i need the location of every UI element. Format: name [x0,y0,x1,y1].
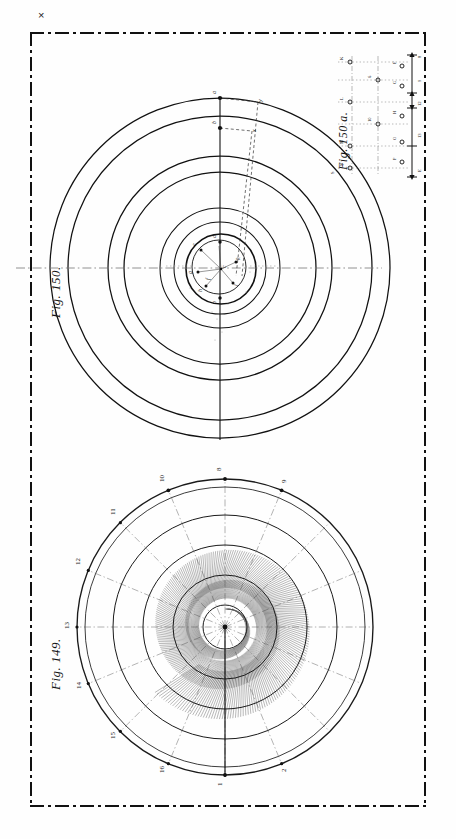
svg-text:13: 13 [63,622,71,630]
svg-text:L: L [339,97,344,100]
svg-text:8: 8 [417,55,422,58]
svg-text:h: h [197,289,203,292]
plate-page: × Plate XXVI. Fig. 150. [0,0,456,839]
svg-text:N: N [339,162,344,166]
svg-text:12: 12 [417,101,422,106]
svg-text:14: 14 [75,682,83,690]
svg-text:G: G [392,80,397,84]
svg-text:12: 12 [74,558,82,566]
svg-text:a: a [211,91,217,94]
svg-text:F: F [392,61,397,64]
svg-text:11: 11 [109,508,117,515]
svg-text:K: K [339,56,344,60]
svg-text:g: g [187,271,193,274]
svg-text:x: x [251,129,257,133]
svg-text:16: 16 [158,766,166,774]
svg-text:f: f [205,277,211,280]
svg-text:l: l [233,284,239,286]
svg-text:1: 1 [216,782,224,786]
figure-150-drawing: a b y x [70,36,370,436]
svg-text:9: 9 [417,79,422,82]
figure-150a-drawing: K L M N 6 10 F G H O P 8 9 12 13 E S [326,46,430,186]
svg-text:13: 13 [417,133,422,138]
registration-mark-icon: × [38,10,44,21]
svg-text:H: H [392,110,397,114]
svg-text:c: c [221,265,227,268]
svg-text:S: S [330,171,335,174]
svg-text:b: b [211,121,217,124]
svg-text:y: y [257,99,263,103]
svg-text:8: 8 [215,467,223,471]
svg-text:o: o [211,301,217,304]
svg-text:10: 10 [158,475,166,483]
svg-text:E: E [417,169,422,172]
svg-text:k: k [235,257,241,260]
figure-149-drawing: 8 9 10 11 12 13 14 15 16 1 2 [60,455,370,800]
svg-text:M: M [339,140,344,144]
svg-text:2: 2 [280,768,288,772]
svg-text:P: P [392,157,397,160]
svg-text:9: 9 [280,479,288,483]
svg-text:6: 6 [367,75,372,78]
svg-text:O: O [392,136,397,140]
svg-text:15: 15 [109,732,117,740]
svg-text:10: 10 [367,117,372,122]
svg-text:e: e [191,243,197,246]
